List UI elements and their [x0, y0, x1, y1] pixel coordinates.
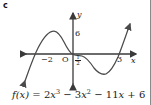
equation-op1: −	[63, 89, 71, 100]
origin-label: O	[62, 55, 69, 64]
equation-equals: =	[32, 89, 40, 100]
equation-term4: 6	[139, 89, 145, 100]
x-tick-neg2: −2	[41, 55, 53, 64]
function-equation: f(x) = 2x3 − 3x2 − 11x + 6	[12, 88, 140, 100]
x-tick-3: 3	[117, 55, 122, 64]
x-tick-one-half: 1 2	[75, 55, 81, 66]
equation-lhs: f(x)	[12, 89, 29, 100]
y-axis-label: y	[77, 10, 82, 19]
equation-term3-coef: 11	[106, 89, 119, 100]
x-axis-label: x	[131, 56, 136, 65]
equation-term3-var: x	[119, 89, 125, 100]
equation-op2: −	[94, 89, 102, 100]
equation-op3: +	[127, 89, 135, 100]
equation-term2-exp: 2	[87, 88, 91, 96]
figure-container: c y x O −2 3 6 1 2 f(x) = 2x3 − 3x2	[0, 0, 151, 105]
y-tick-6: 6	[75, 29, 80, 38]
equation-term1-exp: 3	[56, 88, 60, 96]
fraction-denominator: 2	[75, 61, 81, 66]
